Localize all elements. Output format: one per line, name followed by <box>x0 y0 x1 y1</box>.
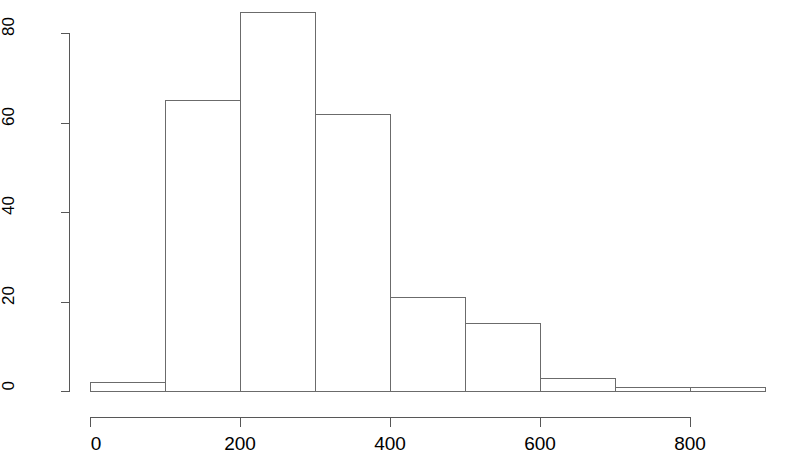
y-axis-tick-20 <box>61 302 70 303</box>
y-axis-tick-label-80-text: 80 <box>0 17 18 36</box>
x-axis-tick-label-800: 800 <box>674 433 706 455</box>
histogram-bar-3 <box>315 114 391 392</box>
y-axis-tick-label-20: 20 <box>0 286 55 305</box>
histogram-bar-1 <box>165 100 241 392</box>
x-axis-tick-400 <box>390 418 391 427</box>
histogram-figure: 0 20 40 60 80 0 200 400 600 80 <box>0 0 797 475</box>
x-axis-tick-label-200: 200 <box>224 433 256 455</box>
x-axis-tick-label-0: 0 <box>91 433 102 455</box>
histogram-bar-7 <box>615 387 691 392</box>
x-axis-tick-200 <box>240 418 241 427</box>
x-axis-tick-800 <box>690 418 691 427</box>
plot-area: 0 20 40 60 80 0 200 400 600 80 <box>0 0 797 475</box>
y-axis-tick-60 <box>61 123 70 124</box>
y-axis-tick-label-60-text: 60 <box>0 107 18 126</box>
y-axis-tick-label-40-text: 40 <box>0 196 18 215</box>
y-axis-tick-80 <box>61 33 70 34</box>
y-axis-tick-label-0-text: 0 <box>0 381 18 390</box>
histogram-bar-2 <box>240 12 316 392</box>
x-axis-tick-label-400: 400 <box>374 433 406 455</box>
histogram-bar-5 <box>465 323 541 392</box>
histogram-bar-6 <box>540 378 616 392</box>
y-axis-tick-label-60: 60 <box>0 107 55 126</box>
x-axis-tick-600 <box>540 418 541 427</box>
histogram-bar-4 <box>390 297 466 392</box>
y-axis-tick-label-80: 80 <box>0 17 55 36</box>
y-axis-tick-label-0: 0 <box>0 381 55 390</box>
y-axis-tick-0 <box>61 391 70 392</box>
y-axis-tick-label-40: 40 <box>0 196 55 215</box>
x-axis-tick-label-600: 600 <box>524 433 556 455</box>
y-axis-tick-label-20-text: 20 <box>0 286 18 305</box>
histogram-bar-8 <box>690 387 766 392</box>
y-axis-tick-40 <box>61 212 70 213</box>
x-axis-tick-0 <box>90 418 91 427</box>
histogram-bar-0 <box>90 382 166 392</box>
